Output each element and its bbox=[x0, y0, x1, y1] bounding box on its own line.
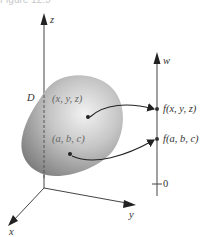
function-of-three-variables-diagram: Figure 12.5 bbox=[0, 0, 214, 237]
point-abc-label: (a, b, c) bbox=[52, 134, 85, 145]
w-axis bbox=[152, 52, 162, 196]
y-axis-arrow-icon bbox=[123, 200, 136, 208]
point-xyz-label: (x, y, z) bbox=[52, 94, 82, 105]
point-abc bbox=[68, 152, 72, 156]
region-label: D bbox=[27, 93, 35, 104]
region-d bbox=[21, 75, 123, 178]
x-axis bbox=[8, 188, 44, 226]
zero-label: 0 bbox=[163, 179, 168, 190]
value1-point bbox=[155, 107, 159, 111]
value2-point bbox=[155, 137, 159, 141]
x-axis-label: x bbox=[9, 227, 14, 237]
y-axis-label: y bbox=[129, 210, 134, 221]
point-xyz bbox=[86, 115, 90, 119]
y-axis bbox=[44, 188, 136, 208]
z-axis-arrow-icon bbox=[41, 13, 48, 25]
diagram-canvas bbox=[0, 0, 214, 237]
w-axis-arrow-icon bbox=[154, 52, 161, 64]
w-axis-label: w bbox=[163, 56, 170, 67]
value1-label: f(x, y, z) bbox=[163, 104, 196, 115]
value2-label: f(a, b, c) bbox=[163, 134, 199, 145]
z-axis-label: z bbox=[50, 15, 54, 26]
